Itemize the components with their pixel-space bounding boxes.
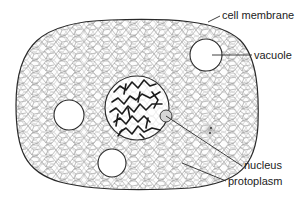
label-vacuole: vacuole [254,50,292,61]
label-nucleus: nucleus [244,160,282,171]
label-protoplasm: protoplasm [228,176,282,187]
cell-illustration [0,0,301,203]
vacuole-left [54,100,84,130]
vacuole-bottom [98,149,126,177]
leader-cell-membrane [208,16,220,22]
cell-diagram: cell membrane vacuole nucleus protoplasm [0,0,301,203]
label-cell-membrane: cell membrane [222,10,294,21]
centrosome [201,121,219,139]
